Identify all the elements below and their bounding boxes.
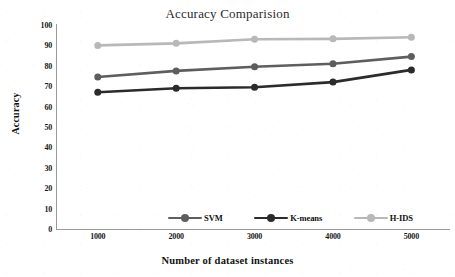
x-axis-title: Number of dataset instances [0,255,455,266]
data-point [408,66,415,73]
series-k-means [94,66,415,95]
legend-marker-icon [254,213,288,223]
chart-legend: SVMK-meansH-IDS [168,211,413,225]
data-point [94,42,101,49]
legend-label: H-IDS [390,213,413,223]
data-point [251,63,258,70]
data-point [94,74,101,81]
legend-label: K-means [290,213,322,223]
data-point [329,35,336,42]
data-point [251,36,258,43]
accuracy-comparison-chart: Accuracy Comparision 0102030405060708090… [0,0,455,277]
data-point [329,79,336,86]
data-point [329,60,336,67]
data-point [408,34,415,41]
data-point [173,85,180,92]
data-point [173,40,180,47]
data-point [173,67,180,74]
legend-label: SVM [204,213,223,223]
legend-item-svm[interactable]: SVM [168,213,223,223]
legend-marker-icon [168,213,202,223]
legend-item-k-means[interactable]: K-means [254,213,322,223]
legend-item-h-ids[interactable]: H-IDS [354,213,413,223]
y-axis-title: Accuracy [10,69,21,159]
series-plot-layer [0,0,455,277]
data-point [94,89,101,96]
data-point [251,84,258,91]
series-h-ids [94,34,415,49]
legend-marker-icon [354,213,388,223]
data-point [408,53,415,60]
